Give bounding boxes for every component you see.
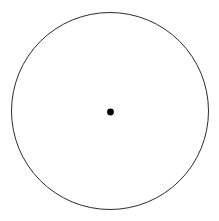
center-point-dot-icon (107, 109, 114, 116)
figure-canvas: Circle with marked center point (0, 0, 219, 221)
geometry-figure-svg (0, 0, 219, 221)
